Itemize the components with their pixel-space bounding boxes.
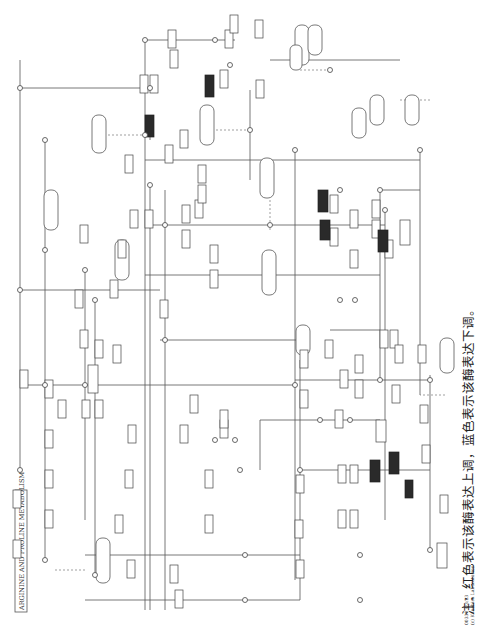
enzyme-1-5-1-11 — [205, 75, 214, 97]
map-glutathione[interactable] — [405, 95, 419, 125]
map-lysine-degradation[interactable] — [200, 105, 214, 145]
map-histidine[interactable] — [440, 338, 454, 373]
map-degradation[interactable] — [92, 115, 106, 153]
pathway-diagram: ARGININE AND PROLINE METABOLISM — [0, 0, 485, 628]
map-beta-alanine[interactable] — [370, 95, 384, 125]
enzyme-4-1-1-50 — [378, 230, 388, 252]
map-pantothenate-coa[interactable] — [352, 108, 366, 138]
map-cysteine-methionine[interactable] — [260, 158, 274, 198]
enzyme-2-6-1-81 — [405, 480, 413, 498]
enzyme-2-3-1-57 — [389, 452, 399, 474]
map-tropane-alkaloid[interactable] — [262, 250, 276, 295]
enzyme-2-5-1-6 — [318, 190, 328, 212]
pathway-map-boxes — [44, 25, 454, 583]
map-alanine-aspartate-glutamate[interactable] — [44, 190, 58, 230]
map-arginine-biosynthesis-2[interactable] — [96, 538, 110, 583]
map-glycine-serine-threonine[interactable] — [308, 25, 322, 55]
backbone-lines — [20, 40, 430, 610]
enzyme-1-5-3-16 — [320, 220, 330, 240]
map-citrate-cycle[interactable] — [290, 45, 302, 70]
compound-nodes — [18, 38, 433, 603]
enzyme-2-3-1-57b — [370, 460, 380, 482]
caption-text: 注：红色表示该酶表达上调，蓝色表示该酶表达下调。 — [458, 303, 477, 615]
